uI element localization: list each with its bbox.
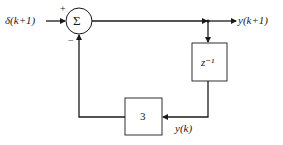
delay-block-label: z⁻¹ [201, 57, 214, 68]
input-label: δ(k+1) [5, 15, 35, 26]
feedback-signal-label: y(k) [175, 123, 192, 134]
feedback-line-gain-to-summer [79, 35, 125, 117]
feedback-line-delay-to-gain [163, 81, 208, 117]
minus-sign: − [68, 36, 74, 46]
gain-block-label: 3 [140, 111, 146, 122]
sigma-symbol: Σ [73, 14, 81, 27]
output-label: y(k+1) [238, 15, 268, 26]
plus-sign: + [60, 4, 66, 14]
